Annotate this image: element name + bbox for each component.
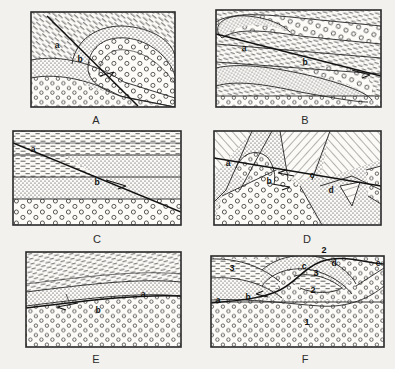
panel-B-label-a: a <box>242 43 247 53</box>
panel-F-caption: F <box>302 353 309 365</box>
panel-B-basal-band <box>216 96 381 107</box>
panel-A-caption: A <box>92 114 100 126</box>
panel-D-label-a: a <box>226 158 231 168</box>
panel-D-label-c: c <box>310 170 315 180</box>
panel-F-unit-2-top: 2 <box>321 245 326 255</box>
panel-F-unit-3-left: 3 <box>229 263 234 273</box>
panel-C-label-b: b <box>94 177 99 187</box>
panel-D-caption: D <box>303 233 311 245</box>
panel-F-label-e: e <box>376 258 381 268</box>
panel-D-label-d: d <box>328 185 333 195</box>
panel-F-unit-1-conglomerate <box>211 302 384 347</box>
panel-C-label-a: a <box>31 144 36 154</box>
panel-F-label-b: b <box>245 292 250 302</box>
figure-canvas: a b A <box>0 0 395 369</box>
panel-C-caption: C <box>93 233 101 245</box>
panel-D-label-b: b <box>266 176 271 186</box>
panel-E-caption: E <box>92 353 99 365</box>
panel-C-offset-conglomerate <box>13 199 181 225</box>
panel-F: a b c d e 1 2 2 3 3 F <box>211 245 384 365</box>
panel-F-label-c: c <box>302 261 307 271</box>
panel-A-label-a: a <box>55 40 60 50</box>
panel-F-label-d: d <box>331 258 336 268</box>
panel-B-label-b: b <box>302 57 307 67</box>
panel-E-label-a: a <box>141 289 146 299</box>
panel-F-unit-2-lower: 2 <box>310 285 315 295</box>
panel-E-label-b: b <box>95 305 100 315</box>
panel-F-unit-1: 1 <box>304 317 309 327</box>
panel-F-label-a: a <box>216 295 221 305</box>
panel-F-unit-3-right: 3 <box>313 268 318 278</box>
geologic-cross-section-figure: a b A <box>0 0 395 369</box>
panel-A-label-b: b <box>77 54 82 64</box>
panel-B-caption: B <box>301 114 308 126</box>
